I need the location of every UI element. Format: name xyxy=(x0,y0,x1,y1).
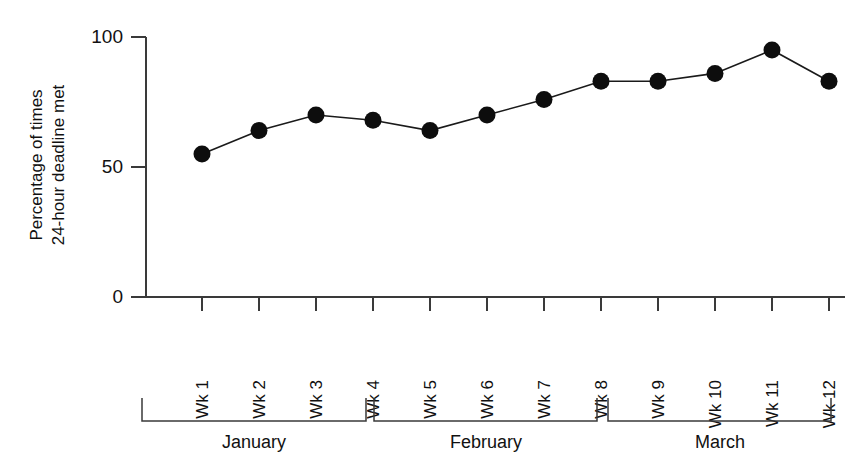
x-tick-label-5: Wk 5 xyxy=(421,380,440,419)
y-axis-title-line2: 24-hour deadline met xyxy=(49,84,68,245)
series-marker xyxy=(422,122,439,139)
series-line-path xyxy=(202,50,829,154)
series-marker xyxy=(365,112,382,129)
series-marker xyxy=(251,122,268,139)
x-tick-label-7: Wk 7 xyxy=(535,380,554,419)
series-marker xyxy=(194,146,211,163)
x-tick-label-3: Wk 3 xyxy=(307,380,326,419)
series-marker xyxy=(650,73,667,90)
x-tick-label-2: Wk 2 xyxy=(250,380,269,419)
y-tick-label-50: 50 xyxy=(102,156,123,177)
y-tick-label-100: 100 xyxy=(91,26,123,47)
x-tick-label-11: Wk 11 xyxy=(763,380,782,427)
x-tick-label-9: Wk 9 xyxy=(649,380,668,419)
group-label-february: February xyxy=(450,432,522,452)
y-tick-label-0: 0 xyxy=(112,286,123,307)
series-marker xyxy=(764,42,781,59)
group-label-january: January xyxy=(222,432,286,452)
x-tick-label-1: Wk 1 xyxy=(193,380,212,419)
series-marker xyxy=(479,107,496,124)
series-marker xyxy=(821,73,838,90)
group-label-march: March xyxy=(695,432,745,452)
series-marker xyxy=(593,73,610,90)
line-chart: Percentage of times 24-hour deadline met… xyxy=(0,0,855,470)
y-axis-title-line1: Percentage of times xyxy=(27,89,46,240)
y-axis: 100 50 0 xyxy=(91,26,146,307)
series-marker xyxy=(308,107,325,124)
series-marker-group xyxy=(194,42,838,163)
y-axis-title: Percentage of times 24-hour deadline met xyxy=(27,84,68,245)
series-marker xyxy=(536,91,553,108)
series-marker xyxy=(707,65,724,82)
chart-container: Percentage of times 24-hour deadline met… xyxy=(0,0,855,470)
x-axis xyxy=(146,297,845,311)
series-group xyxy=(194,42,838,163)
x-tick-label-6: Wk 6 xyxy=(478,380,497,419)
